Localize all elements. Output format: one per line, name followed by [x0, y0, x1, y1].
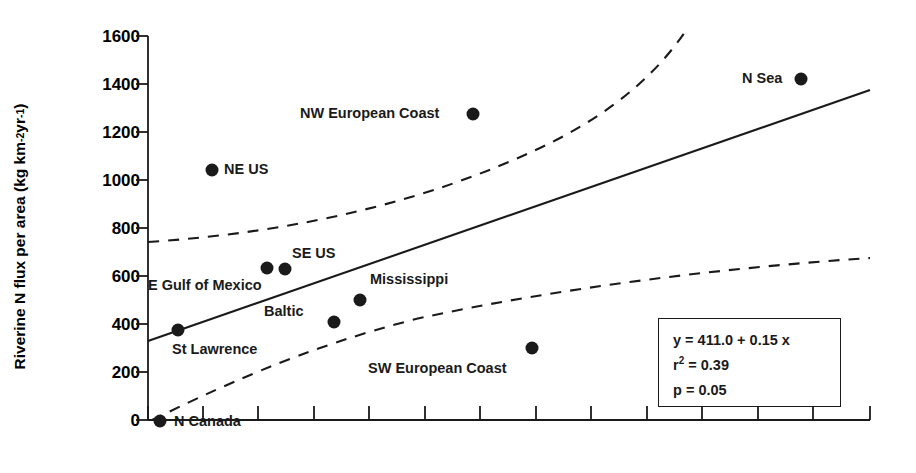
stats-equation: y = 411.0 + 0.15 x [673, 328, 840, 353]
point-label-nw-european-coast: NW European Coast [300, 105, 439, 121]
point-label-ne-us: NE US [224, 161, 268, 177]
regression-line [148, 90, 870, 341]
data-point-e-gulf-of-mexico [261, 262, 274, 275]
stats-p-value: p = 0.05 [673, 378, 840, 403]
point-label-st-lawrence: St Lawrence [172, 341, 257, 357]
point-label-sw-european-coast: SW European Coast [368, 360, 507, 376]
point-label-baltic: Baltic [264, 303, 304, 319]
chart-figure: Riverine N flux per area (kg km-2 yr-1) … [0, 0, 916, 473]
stats-r-value: = 0.39 [684, 357, 729, 373]
data-point-sw-european-coast [526, 342, 539, 355]
point-label-e-gulf-of-mexico: E Gulf of Mexico [148, 277, 262, 293]
data-point-baltic [328, 316, 341, 329]
point-label-n-sea: N Sea [742, 70, 782, 86]
regression-stats-box: y = 411.0 + 0.15 x r2 = 0.39 p = 0.05 [658, 318, 841, 407]
point-label-mississippi: Mississippi [370, 271, 448, 287]
stats-r-squared: r2 = 0.39 [673, 353, 840, 378]
data-point-nw-european-coast [467, 108, 480, 121]
data-point-n-sea [795, 73, 808, 86]
x-axis-ticks [148, 406, 870, 420]
upper-confidence-band [148, 32, 685, 242]
data-point-mississippi [354, 294, 367, 307]
y-axis-ticks [136, 36, 148, 420]
point-label-se-us: SE US [292, 245, 336, 261]
data-point-st-lawrence [172, 324, 185, 337]
point-label-n-canada: N Canada [174, 413, 241, 429]
data-point-n-canada [154, 415, 167, 428]
data-point-ne-us [206, 164, 219, 177]
data-point-se-us [279, 263, 292, 276]
